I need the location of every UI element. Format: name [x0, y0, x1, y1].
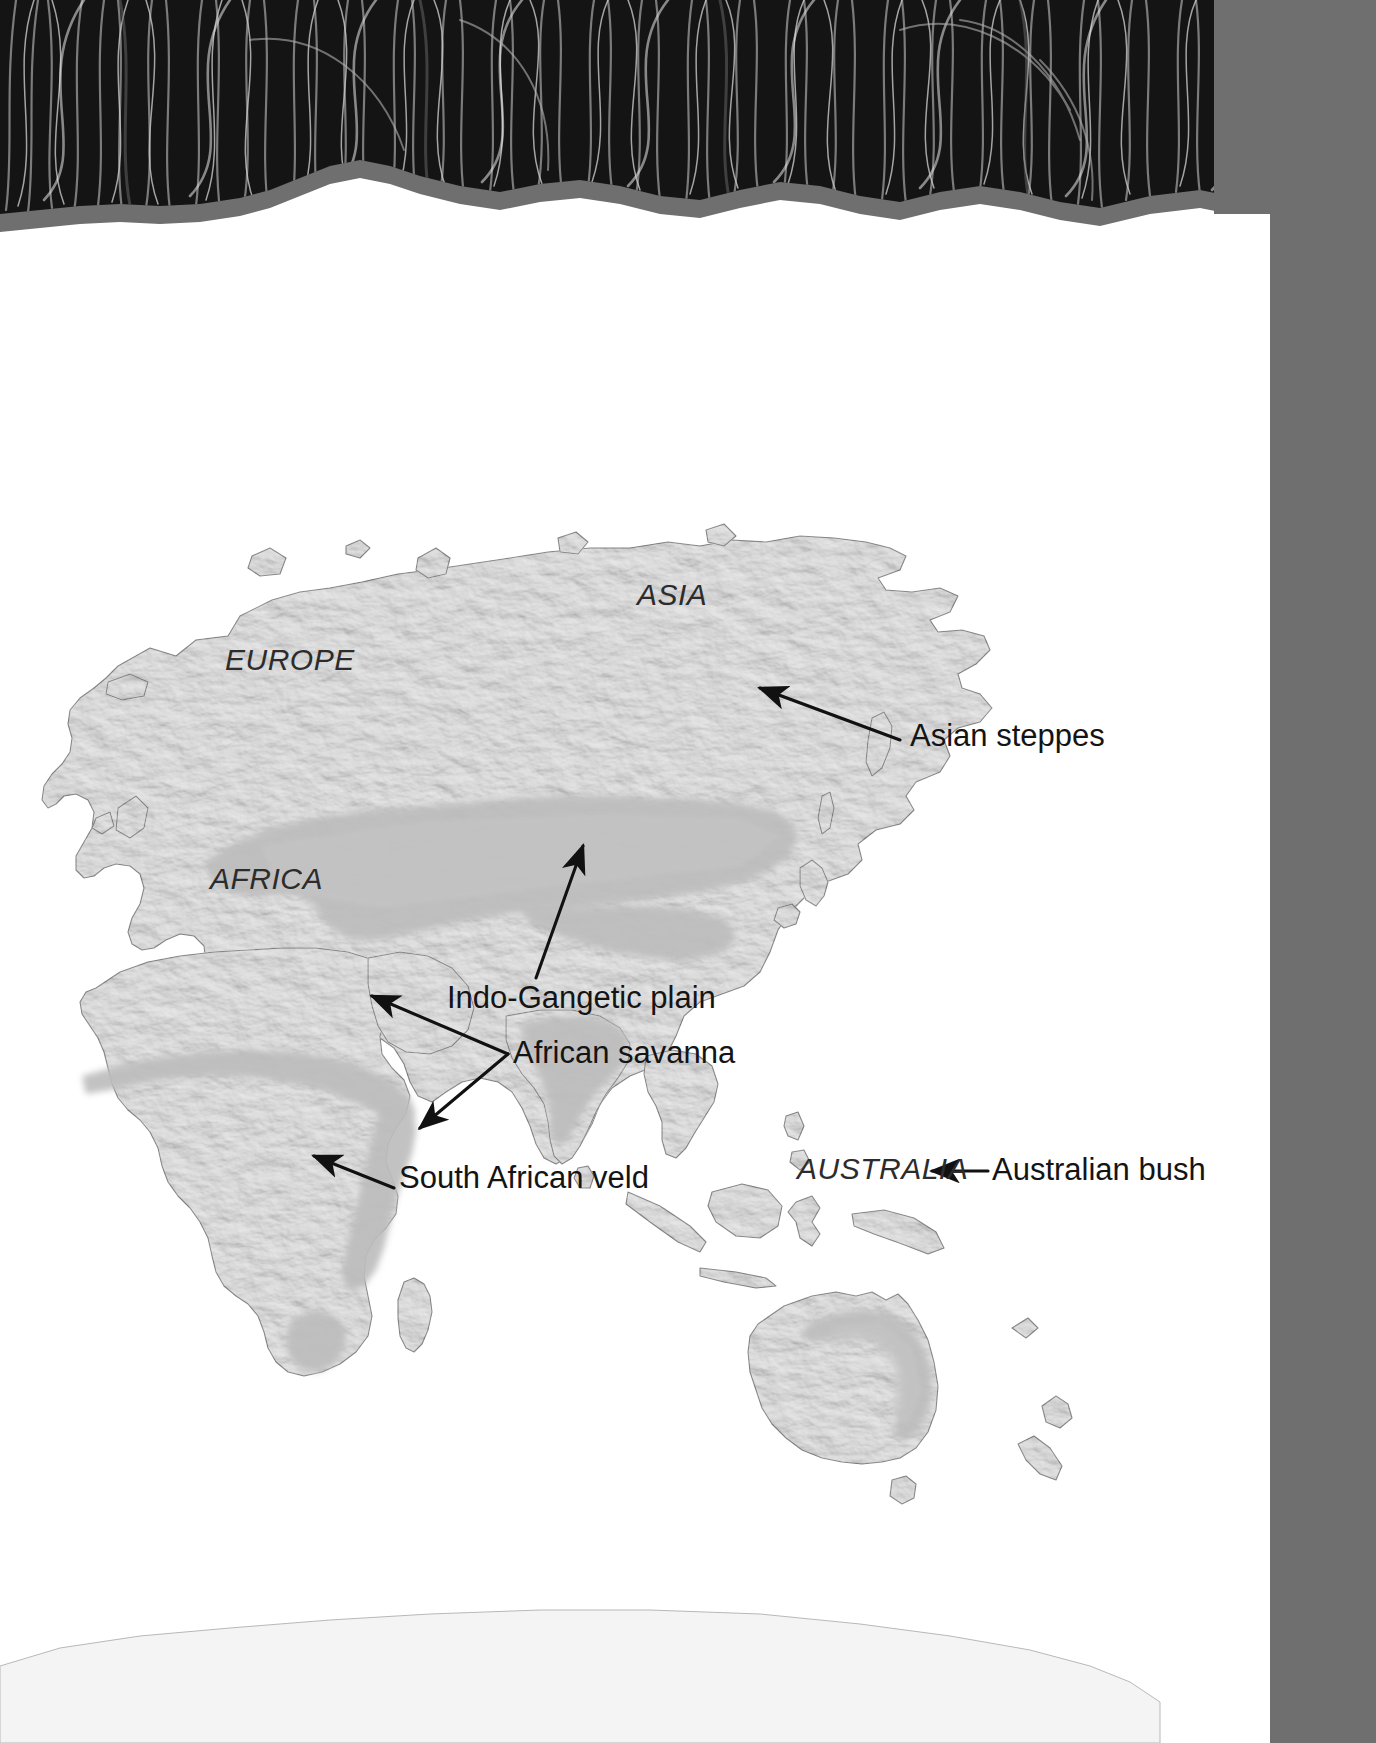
franz-josef-landmass [346, 540, 370, 558]
tab-notch[interactable] [1242, 720, 1270, 764]
continent-label-africa: AFRICA [210, 862, 323, 896]
novaya-zemlya-landmass [416, 548, 450, 578]
madagascar-landmass [398, 1278, 432, 1352]
tab-notch[interactable] [1242, 1220, 1270, 1264]
tab-notch[interactable] [1242, 1320, 1270, 1364]
africa-landmass [80, 948, 410, 1376]
sumatra-landmass [626, 1192, 706, 1252]
map-graphic [0, 196, 1222, 1743]
svalbard-landmass [248, 548, 286, 576]
continent-label-europe: EUROPE [225, 643, 355, 677]
page-edge-tab-strip [1214, 0, 1376, 1743]
borneo-landmass [708, 1184, 782, 1238]
world-map [0, 196, 1222, 1743]
callout-label-indo-gangetic-plain: Indo-Gangetic plain [447, 980, 716, 1016]
tab-notch[interactable] [1242, 920, 1270, 964]
landmasses [0, 524, 1160, 1743]
philippines-landmass [784, 1112, 804, 1140]
tab-notch[interactable] [1242, 520, 1270, 564]
tall-grass-photograph [0, 0, 1376, 232]
tab-notch[interactable] [1242, 1420, 1270, 1464]
tab-notch[interactable] [1242, 420, 1270, 464]
callout-label-african-savanna: African savanna [513, 1035, 735, 1071]
page-root: EUROPE ASIA AFRICA AUSTRALIA Asian stepp… [0, 0, 1376, 1743]
tab-notch[interactable] [1242, 1620, 1270, 1664]
new-zealand-south-landmass [1018, 1436, 1062, 1480]
continent-label-asia: ASIA [637, 578, 707, 612]
callout-label-asian-steppes: Asian steppes [910, 718, 1105, 754]
new-guinea-landmass [852, 1210, 944, 1254]
tab-notch[interactable] [1242, 620, 1270, 664]
tasmania-landmass [890, 1476, 916, 1504]
antarctica-landmass [0, 1610, 1160, 1743]
tab-notch[interactable] [1242, 1120, 1270, 1164]
tab-notch[interactable] [1242, 320, 1270, 364]
tab-notch[interactable] [1242, 820, 1270, 864]
tab-notch[interactable] [1242, 1520, 1270, 1564]
grass-photo-graphic [0, 0, 1376, 232]
new-zealand-north-landmass [1042, 1396, 1072, 1428]
callout-label-australian-bush: Australian bush [992, 1152, 1206, 1188]
callout-label-south-african-veld: South African veld [399, 1160, 649, 1196]
java-landmass [700, 1268, 776, 1288]
tab-notch[interactable] [1242, 1020, 1270, 1064]
sulawesi-landmass [788, 1196, 820, 1246]
new-caledonia-landmass [1012, 1318, 1038, 1338]
continent-label-australia: AUSTRALIA [797, 1152, 968, 1186]
tab-notch[interactable] [1242, 232, 1270, 276]
